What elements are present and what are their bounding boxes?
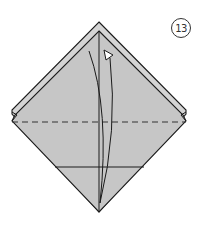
step-number: 13: [171, 18, 191, 38]
